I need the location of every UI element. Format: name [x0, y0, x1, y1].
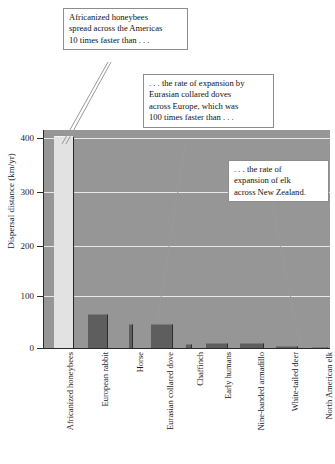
callout-honeybees-line-3: 10 times faster than . . .: [69, 35, 182, 46]
x-label-africanized-honeybees: Africanized honeybees: [66, 352, 75, 430]
callout-collared-dove-line-4: 100 times faster than . . .: [149, 112, 268, 123]
y-tick-label-100: 100: [8, 292, 34, 301]
bar-european-rabbit: [88, 314, 108, 348]
callout-elk-line-2: expansion of elk: [234, 175, 323, 186]
callout-collared-dove-line-2: Eurasian collared doves: [149, 89, 268, 100]
bar-africanized-honeybees: [54, 136, 74, 348]
y-tick-0: [37, 348, 43, 349]
x-label-north-american-elk: North American elk: [325, 352, 334, 420]
x-label-early-humans: Early humans: [224, 352, 233, 399]
x-axis-line: [43, 348, 330, 349]
callout-elk-line-1: . . . the rate of: [234, 164, 323, 175]
callout-honeybees: Africanized honeybees spread across the …: [63, 8, 188, 50]
x-label-eurasian-collared-dove: Eurasian collared dove: [166, 352, 175, 430]
callout-honeybees-line-2: spread across the Americas: [69, 23, 182, 34]
callout-elk-line-3: across New Zealand.: [234, 187, 323, 198]
callout-collared-dove-line-3: across Europe, which was: [149, 101, 268, 112]
y-axis-title: Dispersal distance (km/yr): [6, 136, 16, 266]
x-label-horse: Horse: [136, 352, 145, 372]
callout-honeybees-line-1: Africanized honeybees: [69, 12, 182, 23]
y-axis-line: [43, 130, 44, 349]
x-label-nine-banded-armadillo: Nine-banded armadillo: [257, 352, 266, 431]
y-tick-300: [37, 192, 43, 193]
figure: 400 300 200 100 0 Dispersal distance (km…: [0, 0, 335, 464]
y-tick-400: [37, 138, 43, 139]
bar-horse: [129, 324, 133, 348]
bar-eurasian-collared-dove: [151, 324, 173, 348]
callout-collared-dove-line-1: . . . the rate of expansion by: [149, 78, 268, 89]
callout-collared-dove: . . . the rate of expansion by Eurasian …: [143, 74, 274, 128]
y-tick-label-0: 0: [8, 344, 34, 353]
x-axis-category-labels: Africanized honeybees European rabbit Ho…: [44, 352, 330, 464]
x-label-white-tailed-deer: White-tailed deer: [291, 352, 300, 411]
y-tick-200: [37, 246, 43, 247]
callout-elk: . . . the rate of expansion of elk acros…: [228, 160, 329, 202]
x-label-european-rabbit: European rabbit: [101, 352, 110, 407]
y-tick-100: [37, 296, 43, 297]
x-label-chaffinch: Chaffinch: [196, 352, 205, 386]
